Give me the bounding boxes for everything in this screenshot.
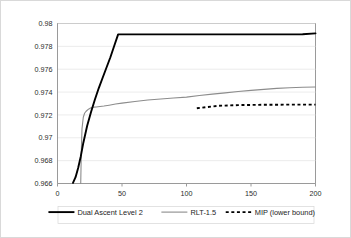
x-axis-tick-label: 150 xyxy=(245,189,257,198)
plot-area-background xyxy=(58,24,316,184)
x-axis-tick-label: 200 xyxy=(310,189,322,198)
legend-label: Dual Ascent Level 2 xyxy=(77,208,142,217)
legend-label: MIP (lower bound) xyxy=(255,208,315,217)
y-axis-tick-labels: 0.9660.9680.970.9720.9740.9760.9780.98 xyxy=(35,19,53,188)
y-axis-tick-label: 0.968 xyxy=(35,156,53,165)
chart-figure: 0.9660.9680.970.9720.9740.9760.9780.98 0… xyxy=(0,0,351,238)
y-axis-tick-label: 0.98 xyxy=(39,19,53,28)
y-axis-tick-label: 0.974 xyxy=(35,88,53,97)
x-axis-tick-labels: 050100150200 xyxy=(56,189,322,198)
y-axis-tick-label: 0.972 xyxy=(35,111,53,120)
y-axis-tick-label: 0.966 xyxy=(35,179,53,188)
x-axis-tick-label: 0 xyxy=(56,189,60,198)
x-axis-tick-label: 100 xyxy=(181,189,193,198)
legend: Dual Ascent Level 2RLT-1.5MIP (lower bou… xyxy=(48,207,315,224)
x-axis-tick-label: 50 xyxy=(118,189,126,198)
y-axis-tick-label: 0.97 xyxy=(39,133,53,142)
chart-canvas: 0.9660.9680.970.9720.9740.9760.9780.98 0… xyxy=(1,1,351,238)
legend-label: RLT-1.5 xyxy=(190,208,216,217)
y-axis-tick-label: 0.978 xyxy=(35,42,53,51)
y-axis-tick-label: 0.976 xyxy=(35,65,53,74)
plot-frame xyxy=(58,24,316,184)
